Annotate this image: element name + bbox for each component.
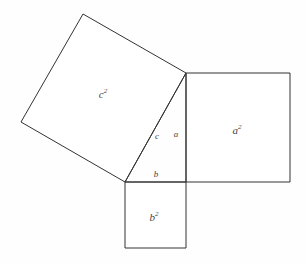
label-side-a: a	[174, 129, 179, 139]
pythagorean-theorem-figure: c2 a2 b2 c a b	[0, 0, 306, 263]
label-c-squared-exponent: 2	[104, 87, 108, 95]
label-side-c: c	[155, 131, 159, 141]
label-side-b: b	[154, 169, 159, 179]
pythagorean-diagram: c2 a2 b2 c a b	[0, 0, 306, 263]
label-b-squared-exponent: 2	[155, 210, 159, 218]
label-a-squared-exponent: 2	[238, 123, 242, 131]
